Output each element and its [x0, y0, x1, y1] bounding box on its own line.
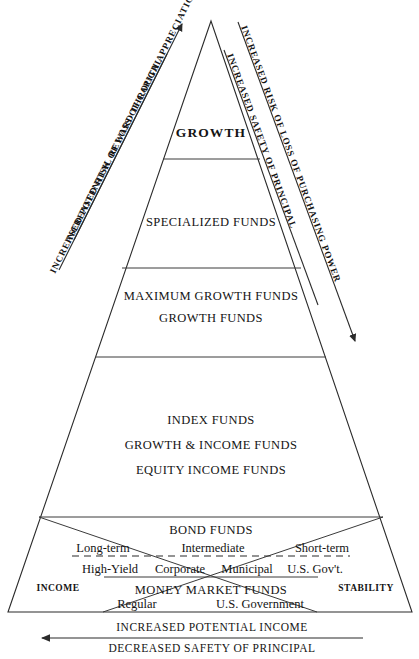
bond-maturity-intermediate: Intermediate: [181, 541, 245, 555]
tier-label-growth-income-funds: GROWTH & INCOME FUNDS: [125, 438, 298, 452]
tier-label-specialized: SPECIALIZED FUNDS: [146, 215, 276, 229]
corner-label-stability: STABILITY: [338, 583, 394, 593]
bond-type-corporate: Corporate: [155, 562, 205, 576]
tier-label-equity-income-funds: EQUITY INCOME FUNDS: [136, 463, 286, 477]
bottom-axis-label-income: INCREASED POTENTIAL INCOME: [116, 621, 307, 633]
tier-label-money-market-funds: MONEY MARKET FUNDS: [135, 583, 287, 597]
bond-maturity-long-term: Long-term: [76, 541, 130, 555]
tier-labels: GROWTH SPECIALIZED FUNDS MAXIMUM GROWTH …: [124, 125, 299, 597]
bond-type-high-yield: High-Yield: [82, 562, 139, 576]
bond-maturity-short-term: Short-term: [295, 541, 349, 555]
bottom-axis-group: INCREASED POTENTIAL INCOME DECREASED SAF…: [42, 621, 363, 654]
right-axis-label-purchasing-power: INCREASED RISK OF LOSS OF PURCHASING POW…: [239, 24, 343, 284]
bottom-axis-label-safety: DECREASED SAFETY OF PRINCIPAL: [109, 642, 316, 654]
tier-label-maximum-growth: MAXIMUM GROWTH FUNDS: [124, 289, 299, 303]
money-market-us-government: U.S. Government: [216, 597, 304, 611]
tier-label-growth: GROWTH: [176, 125, 246, 140]
tier-label-index-funds: INDEX FUNDS: [167, 413, 254, 427]
bond-subdivisions: Long-term Intermediate Short-term High-Y…: [76, 541, 349, 576]
bond-type-municipal: Municipal: [221, 562, 273, 576]
pyramid-diagram: GROWTH SPECIALIZED FUNDS MAXIMUM GROWTH …: [0, 0, 419, 659]
bond-type-us-govt: U.S. Gov't.: [287, 562, 343, 576]
corner-label-income: INCOME: [36, 583, 79, 593]
money-market-subdivisions: Regular U.S. Government: [117, 597, 304, 611]
tier-label-bond-funds: BOND FUNDS: [169, 523, 253, 537]
tier-label-growth-funds: GROWTH FUNDS: [159, 311, 263, 325]
money-market-regular: Regular: [117, 597, 157, 611]
